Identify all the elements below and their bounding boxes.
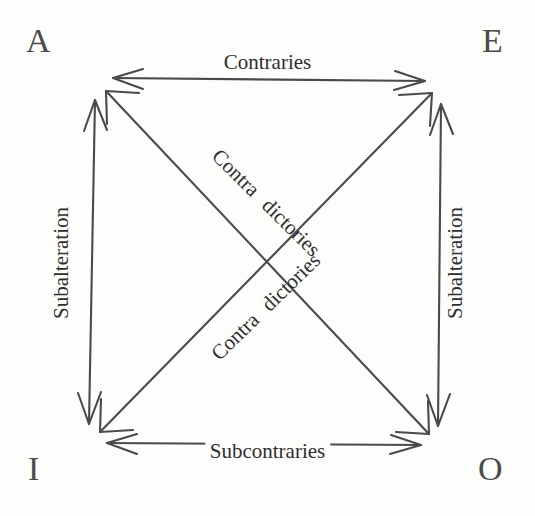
relation-label-contraries: Contraries [219,52,316,73]
edge-line-contradictories-descending [106,91,429,434]
contradictories-desc-gap [251,198,260,207]
edge-line-contradictories-ascending [100,93,432,432]
corner-label-o: O [478,452,503,486]
relation-label-subalteration-right: Subalteration [442,207,469,319]
square-of-opposition-diagram: A E I O Contraries Subcontraries Subalte… [0,0,535,516]
corner-label-i: I [28,452,40,486]
corner-label-e: E [482,24,503,58]
relation-label-subalteration-left: Subalteration [48,207,75,319]
edge-line-subalteration-left [89,100,95,424]
edge-line-contraries [113,78,425,81]
corner-label-a: A [26,24,51,58]
relation-label-subcontraries: Subcontraries [205,441,330,462]
